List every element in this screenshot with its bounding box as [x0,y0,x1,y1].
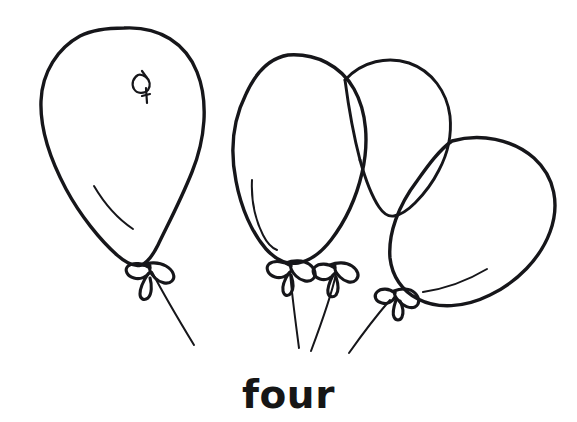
balloon-1-string [152,272,194,345]
balloon-4-highlight [423,269,487,292]
balloon-1 [41,28,204,345]
balloon-4 [349,138,555,353]
balloons-illustration [0,0,577,422]
balloon-2-string [290,272,299,348]
balloon-1-decorative-mark [133,71,150,103]
balloon-3 [311,60,450,351]
balloon-4-string [349,300,390,353]
balloon-1-outline [41,28,204,266]
balloon-1-highlight [94,186,133,229]
balloon-2 [233,55,366,348]
balloon-3-lower-edge [345,80,360,160]
balloon-3-outline [345,60,450,216]
balloon-4-outline [390,138,555,306]
balloon-3-string [311,274,336,351]
balloon-1-bow-knot [126,263,174,300]
caption-text: four [0,373,577,417]
coloring-page: four [0,0,577,422]
balloon-2-highlight [252,180,277,250]
